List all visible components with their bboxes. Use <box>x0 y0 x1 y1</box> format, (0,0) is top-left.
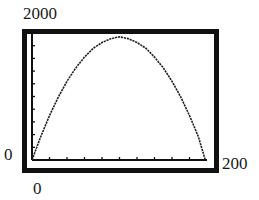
data-curve <box>32 37 205 160</box>
chart-plot <box>0 0 259 200</box>
graph-frame <box>25 32 217 171</box>
